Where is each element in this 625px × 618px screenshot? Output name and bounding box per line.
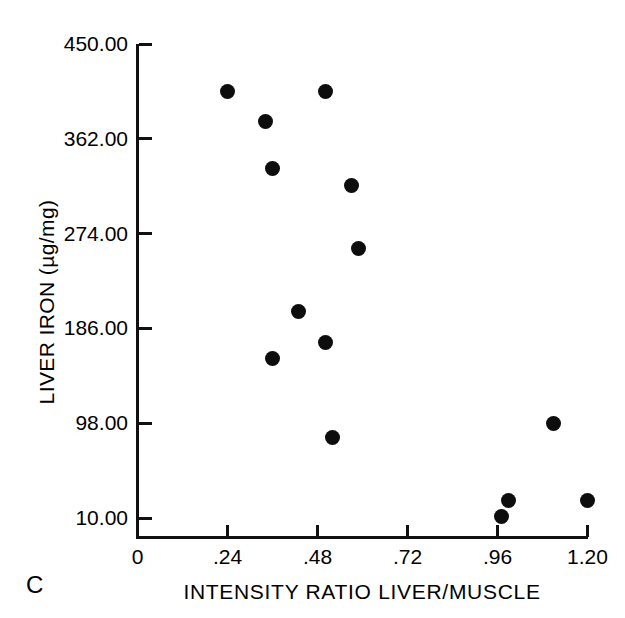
x-axis-tick-mark — [496, 525, 499, 537]
data-point — [258, 114, 273, 129]
x-axis-tick-mark — [136, 525, 139, 537]
data-point — [351, 241, 366, 256]
y-axis-line — [136, 44, 139, 539]
y-axis-tick-mark — [139, 517, 152, 520]
data-point — [318, 335, 333, 350]
x-axis-tick-mark — [226, 525, 229, 537]
x-axis-tick-mark — [406, 525, 409, 537]
x-axis-title: INTENSITY RATIO LIVER/MUSCLE — [136, 580, 588, 604]
data-point — [220, 84, 235, 99]
data-point — [318, 84, 333, 99]
x-axis-tick-label: 1.20 — [567, 546, 608, 568]
data-point — [494, 509, 509, 524]
x-axis-tick-label: .48 — [303, 546, 332, 568]
y-axis-tick-label: 450.00 — [28, 33, 128, 54]
y-axis-tick-mark — [139, 43, 152, 46]
data-point — [344, 178, 359, 193]
x-axis-line — [136, 536, 588, 539]
x-axis-tick-label: .96 — [483, 546, 512, 568]
x-axis-tick-label: 0 — [132, 546, 144, 568]
scatter-plot-figure: 10.0098.00186.00274.00362.00450.00 0.24.… — [0, 0, 625, 618]
data-point — [546, 416, 561, 431]
y-axis-tick-mark — [139, 232, 152, 235]
y-axis-tick-mark — [139, 137, 152, 140]
y-axis-title: LIVER IRON (µg/mg) — [35, 92, 59, 512]
y-axis-tick-mark — [139, 422, 152, 425]
y-axis-tick-mark — [139, 327, 152, 330]
x-axis-tick-label: .72 — [393, 546, 422, 568]
data-point — [291, 304, 306, 319]
data-point — [325, 430, 340, 445]
data-point — [580, 493, 595, 508]
data-point — [501, 493, 516, 508]
x-axis-tick-label: .24 — [213, 546, 242, 568]
data-point — [265, 161, 280, 176]
panel-label: C — [26, 572, 43, 598]
x-axis-tick-mark — [316, 525, 319, 537]
data-point — [265, 351, 280, 366]
x-axis-tick-mark — [586, 525, 589, 537]
